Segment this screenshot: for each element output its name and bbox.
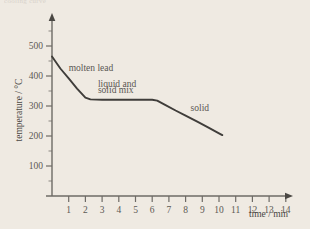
x-tick-label: 7 bbox=[167, 205, 172, 215]
x-tick-label: 3 bbox=[100, 205, 105, 215]
x-axis-title: time / min bbox=[249, 209, 288, 219]
y-tick-label: 500 bbox=[29, 41, 44, 51]
y-tick-label: 100 bbox=[29, 161, 44, 171]
y-tick-label: 400 bbox=[29, 71, 44, 81]
annotation-label: solid bbox=[191, 103, 210, 113]
x-tick-label: 9 bbox=[200, 205, 205, 215]
y-axis-title: temperature / °C bbox=[14, 79, 24, 142]
annotation-label: solid mix bbox=[98, 85, 134, 95]
x-axis-arrowhead bbox=[285, 193, 293, 199]
cropped-caption-text: cooling curve bbox=[4, 0, 124, 5]
annotation-label: molten lead bbox=[69, 63, 114, 73]
chart-canvas: 100200300400500 1234567891011121314 temp… bbox=[0, 0, 310, 229]
x-tick-label: 5 bbox=[133, 205, 138, 215]
y-tick-label: 300 bbox=[29, 101, 44, 111]
x-tick-label: 6 bbox=[150, 205, 155, 215]
y-axis-arrowhead bbox=[49, 13, 56, 21]
x-tick-label: 8 bbox=[183, 205, 188, 215]
cooling-curve-figure: cooling curve 100200300400500 1234567891… bbox=[0, 0, 310, 229]
curve-annotations: molten leadliquid andsolid mixsolid bbox=[69, 63, 210, 114]
y-axis-major-ticks bbox=[46, 46, 52, 166]
x-tick-label: 10 bbox=[214, 205, 224, 215]
x-tick-label: 1 bbox=[66, 205, 71, 215]
x-tick-label: 11 bbox=[231, 205, 240, 215]
y-axis-tick-labels: 100200300400500 bbox=[29, 41, 44, 171]
x-tick-label: 4 bbox=[116, 205, 121, 215]
y-tick-label: 200 bbox=[29, 131, 44, 141]
x-axis-major-ticks bbox=[69, 196, 286, 202]
x-tick-label: 2 bbox=[83, 205, 88, 215]
